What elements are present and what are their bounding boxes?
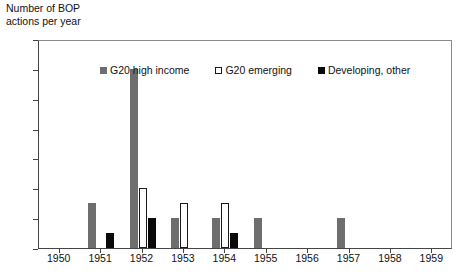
bar [139, 188, 147, 248]
bar [88, 203, 96, 248]
legend-swatch-icon [100, 67, 107, 74]
y-tick-mark [33, 249, 38, 250]
legend-label: G20 high income [110, 64, 189, 76]
legend-label: Developing, other [328, 64, 410, 76]
bar [337, 218, 345, 248]
bar [221, 203, 229, 248]
x-tick-label: 1958 [378, 252, 401, 264]
bar [230, 233, 238, 248]
bar [130, 69, 138, 248]
legend-entry: Developing, other [318, 64, 410, 76]
x-tick-mark [349, 249, 350, 253]
x-tick-label: 1954 [213, 252, 236, 264]
x-tick-mark [307, 249, 308, 253]
x-tick-label: 1951 [88, 252, 111, 264]
legend-label: G20 emerging [225, 64, 292, 76]
x-tick-mark [224, 249, 225, 253]
x-tick-label: 1955 [254, 252, 277, 264]
x-tick-mark [431, 249, 432, 253]
bar [180, 203, 188, 248]
x-tick-label: 1956 [295, 252, 318, 264]
chart-title: Number of BOP actions per year [6, 2, 81, 28]
bar [106, 233, 114, 248]
x-tick-label: 1959 [420, 252, 443, 264]
x-tick-mark [266, 249, 267, 253]
bar [212, 218, 220, 248]
legend-swatch-icon [318, 67, 325, 74]
x-tick-label: 1952 [130, 252, 153, 264]
x-tick-mark [183, 249, 184, 253]
legend-swatch-icon [215, 67, 222, 74]
x-tick-label: 1950 [47, 252, 70, 264]
legend-entry: G20 emerging [215, 64, 292, 76]
x-tick-mark [142, 249, 143, 253]
bar [254, 218, 262, 248]
x-tick-label: 1957 [337, 252, 360, 264]
x-tick-mark [59, 249, 60, 253]
legend-entry: G20 high income [100, 64, 189, 76]
x-tick-mark [390, 249, 391, 253]
x-tick-mark [100, 249, 101, 253]
chart-legend: G20 high incomeG20 emergingDeveloping, o… [100, 64, 410, 76]
bar [148, 218, 156, 248]
x-tick-label: 1953 [171, 252, 194, 264]
bar [171, 218, 179, 248]
